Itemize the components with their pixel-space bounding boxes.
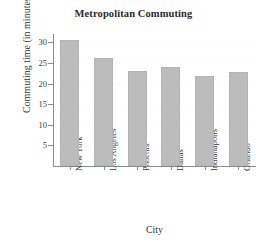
- y-tick-label: 25: [25, 58, 47, 68]
- y-gridline: [54, 145, 256, 146]
- bar: [229, 72, 248, 166]
- x-tick-mark: [137, 167, 138, 170]
- y-tick-label: 15: [25, 99, 47, 109]
- y-axis-line: [53, 34, 54, 167]
- y-tick-mark: [48, 125, 53, 126]
- y-tick-mark: [48, 104, 53, 105]
- x-tick-mark: [171, 167, 172, 170]
- bar: [128, 71, 147, 166]
- y-tick-mark: [48, 84, 53, 85]
- y-gridline: [54, 63, 256, 64]
- bar: [94, 58, 113, 166]
- bar: [60, 40, 79, 166]
- bar: [161, 67, 180, 166]
- x-tick-mark: [104, 167, 105, 170]
- y-tick-label: 20: [25, 79, 47, 89]
- y-tick-mark: [48, 145, 53, 146]
- bar-chart-figure: Metropolitan Commuting Commuting time (i…: [0, 0, 267, 244]
- y-gridline: [54, 125, 256, 126]
- x-tick-mark: [205, 167, 206, 170]
- y-tick-label: 30: [25, 37, 47, 47]
- x-tick-mark: [70, 167, 71, 170]
- y-tick-mark: [48, 42, 53, 43]
- bar: [195, 76, 214, 166]
- chart-title: Metropolitan Commuting: [0, 8, 267, 19]
- y-gridline: [54, 42, 256, 43]
- x-tick-mark: [238, 167, 239, 170]
- y-tick-mark: [48, 63, 53, 64]
- y-gridline: [54, 104, 256, 105]
- x-axis-label: City: [53, 224, 256, 235]
- y-tick-label: 5: [25, 140, 47, 150]
- y-tick-label: 10: [25, 120, 47, 130]
- y-gridline: [54, 84, 256, 85]
